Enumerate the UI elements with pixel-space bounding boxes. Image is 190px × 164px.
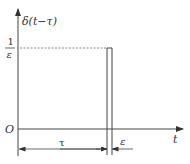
width-label: ε	[120, 136, 125, 147]
x-axis-label: t	[173, 133, 178, 146]
origin-label: O	[5, 123, 14, 136]
shift-label: τ	[59, 137, 65, 148]
height-numerator: 1	[8, 36, 14, 47]
y-axis-label: δ(t−τ)	[22, 15, 57, 28]
delta-pulse-diagram: δ(t−τ) t O 1 ε τ ε	[0, 0, 190, 164]
height-denominator: ε	[7, 49, 12, 60]
